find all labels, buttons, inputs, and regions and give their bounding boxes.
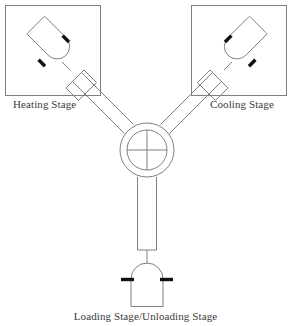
loading-chamber [131,263,163,307]
cooling-valve-lower-mark [249,60,255,66]
cluster-tool-schematic [0,0,291,326]
heating-arm-tube [73,73,134,134]
loading-unloading-stage-label: Loading Stage/Unloading Stage [74,310,217,322]
transfer-hub [120,123,174,177]
heating-stage-label: Heating Stage [13,98,76,110]
heating-valve-upper-mark [63,36,69,42]
diagram-root: Heating Stage Cooling Stage Loading Stag… [0,0,291,326]
cooling-stage-label: Cooling Stage [210,98,274,110]
cooling-stage-enclosure [192,6,287,96]
heating-stage-enclosure [6,6,101,96]
heating-valve-lower-mark [39,60,45,66]
heating-chamber-stub [62,62,70,70]
loading-arm-tube [138,177,157,250]
cooling-chamber-stub [224,62,232,70]
cooling-valve-upper-mark [225,36,231,42]
